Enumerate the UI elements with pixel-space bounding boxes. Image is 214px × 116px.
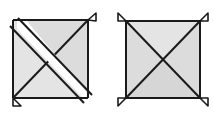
left-figure (10, 13, 96, 106)
diagram-svg (0, 0, 214, 116)
figure-canvas (0, 0, 214, 116)
right-figure (118, 13, 208, 106)
